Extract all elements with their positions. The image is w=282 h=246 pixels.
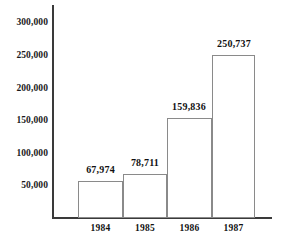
bar-1987 — [212, 55, 255, 218]
value-label-1987: 250,737 — [205, 39, 263, 49]
category-label-1984: 1984 — [78, 224, 123, 234]
value-label-1986: 159,836 — [160, 102, 218, 112]
category-label-1985: 1985 — [123, 224, 167, 234]
category-label-1986: 1986 — [167, 224, 212, 234]
category-label-1987: 1987 — [212, 224, 255, 234]
bar-1985 — [123, 174, 167, 218]
y-tick-label: 250,000 — [0, 51, 48, 61]
bar-1984 — [78, 181, 123, 218]
y-tick-label: 200,000 — [0, 84, 48, 94]
bar-chart: 300,000 250,000 200,000 150,000 100,000 … — [0, 0, 282, 246]
y-tick-label: 50,000 — [0, 181, 48, 191]
y-axis-line — [52, 5, 54, 219]
y-tick-label: 150,000 — [0, 116, 48, 126]
y-tick-label: 300,000 — [0, 18, 48, 28]
value-label-1984: 67,974 — [78, 165, 123, 175]
y-tick-label: 100,000 — [0, 149, 48, 159]
value-label-1985: 78,711 — [122, 158, 168, 168]
bar-1986 — [167, 118, 212, 218]
